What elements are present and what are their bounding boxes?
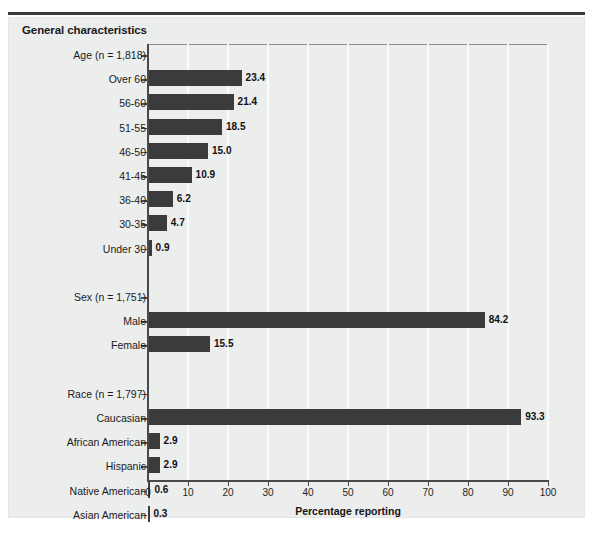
x-tick-label: 30 bbox=[262, 487, 273, 498]
category-label: Caucasian bbox=[96, 412, 146, 424]
x-tick-label: 0 bbox=[145, 487, 151, 498]
bar bbox=[148, 506, 150, 522]
bar bbox=[148, 94, 234, 110]
x-axis-title: Percentage reporting bbox=[295, 505, 401, 517]
bar-row: Under 300.9 bbox=[0, 238, 593, 262]
category-label: Male bbox=[123, 315, 146, 327]
category-label: 56-60 bbox=[119, 97, 146, 109]
group-label: Race (n = 1,797) bbox=[67, 388, 146, 400]
bar bbox=[148, 312, 485, 328]
bar bbox=[148, 167, 192, 183]
category-label: African American bbox=[67, 436, 146, 448]
x-tick-label: 50 bbox=[342, 487, 353, 498]
bar-value-label: 15.5 bbox=[214, 338, 233, 349]
bar bbox=[148, 336, 210, 352]
group-header-row: Sex (n = 1,751) bbox=[0, 286, 593, 310]
bar-value-label: 6.2 bbox=[177, 193, 191, 204]
x-tick-label: 80 bbox=[462, 487, 473, 498]
x-tick-mark bbox=[388, 481, 389, 486]
bar-row: Female15.5 bbox=[0, 334, 593, 358]
bar-row: Male84.2 bbox=[0, 310, 593, 334]
category-label: 46-50 bbox=[119, 146, 146, 158]
bar bbox=[148, 143, 208, 159]
bar-value-label: 15.0 bbox=[212, 145, 231, 156]
group-label: Sex (n = 1,751) bbox=[74, 291, 146, 303]
category-label: 30-35 bbox=[119, 218, 146, 230]
category-label: 41-45 bbox=[119, 170, 146, 182]
spacer-row bbox=[0, 262, 593, 286]
category-label: Under 30 bbox=[103, 243, 146, 255]
bar bbox=[148, 191, 173, 207]
bar-value-label: 4.7 bbox=[171, 217, 185, 228]
category-label: Hispanic bbox=[106, 460, 146, 472]
bar-row: 51-5518.5 bbox=[0, 117, 593, 141]
bar bbox=[148, 409, 521, 425]
bar-value-label: 0.6 bbox=[154, 484, 168, 495]
category-label: Female bbox=[111, 339, 146, 351]
bar-value-label: 2.9 bbox=[164, 459, 178, 470]
x-tick-mark bbox=[308, 481, 309, 486]
x-tick-mark bbox=[228, 481, 229, 486]
bar-value-label: 23.4 bbox=[246, 72, 265, 83]
x-tick-mark bbox=[468, 481, 469, 486]
bar-row: 56-6021.4 bbox=[0, 92, 593, 116]
bar bbox=[148, 240, 152, 256]
x-tick-mark bbox=[508, 481, 509, 486]
x-tick-mark bbox=[548, 481, 549, 486]
x-tick-label: 70 bbox=[422, 487, 433, 498]
bar-row: Over 6023.4 bbox=[0, 68, 593, 92]
top-horizontal-rule bbox=[8, 12, 585, 15]
x-tick-label: 40 bbox=[302, 487, 313, 498]
bar-value-label: 10.9 bbox=[196, 169, 215, 180]
category-label: 36-40 bbox=[119, 194, 146, 206]
x-tick-mark bbox=[348, 481, 349, 486]
group-header-row: Age (n = 1,818) bbox=[0, 44, 593, 68]
bar bbox=[148, 215, 167, 231]
x-tick-label: 60 bbox=[382, 487, 393, 498]
bar-row: 46-5015.0 bbox=[0, 141, 593, 165]
bar-value-label: 0.3 bbox=[154, 508, 168, 519]
x-tick-mark bbox=[268, 481, 269, 486]
bar-row: 41-4510.9 bbox=[0, 165, 593, 189]
bar bbox=[148, 70, 242, 86]
category-label: 51-55 bbox=[119, 122, 146, 134]
figure-title: General characteristics bbox=[22, 24, 147, 36]
bar-value-label: 2.9 bbox=[164, 435, 178, 446]
bar-row: Caucasian93.3 bbox=[0, 407, 593, 431]
x-tick-label: 20 bbox=[222, 487, 233, 498]
x-tick-mark bbox=[428, 481, 429, 486]
bar bbox=[148, 457, 160, 473]
bar-value-label: 84.2 bbox=[489, 314, 508, 325]
bar bbox=[148, 433, 160, 449]
x-tick-mark bbox=[188, 481, 189, 486]
category-label: Native American bbox=[70, 485, 146, 497]
bar-row: 36-406.2 bbox=[0, 189, 593, 213]
group-header-row: Race (n = 1,797) bbox=[0, 383, 593, 407]
bar-value-label: 93.3 bbox=[525, 411, 544, 422]
bar-value-label: 0.9 bbox=[156, 242, 170, 253]
bar-row: Hispanic2.9 bbox=[0, 455, 593, 479]
x-tick-label: 10 bbox=[182, 487, 193, 498]
x-tick-label: 100 bbox=[540, 487, 557, 498]
x-tick-mark bbox=[148, 481, 149, 486]
bar-value-label: 21.4 bbox=[238, 96, 257, 107]
category-label: Over 60 bbox=[109, 73, 146, 85]
bar-row: 30-354.7 bbox=[0, 213, 593, 237]
bar-value-label: 18.5 bbox=[226, 121, 245, 132]
category-label: Asian American bbox=[73, 509, 146, 521]
x-tick-label: 90 bbox=[502, 487, 513, 498]
page-text-remnant bbox=[8, 0, 268, 9]
bar bbox=[148, 119, 222, 135]
group-label: Age (n = 1,818) bbox=[73, 49, 146, 61]
y-axis-line bbox=[147, 44, 149, 481]
bar-row: African American2.9 bbox=[0, 431, 593, 455]
figure-root: General characteristics Age (n = 1,818)O… bbox=[0, 0, 593, 535]
spacer-row bbox=[0, 359, 593, 383]
